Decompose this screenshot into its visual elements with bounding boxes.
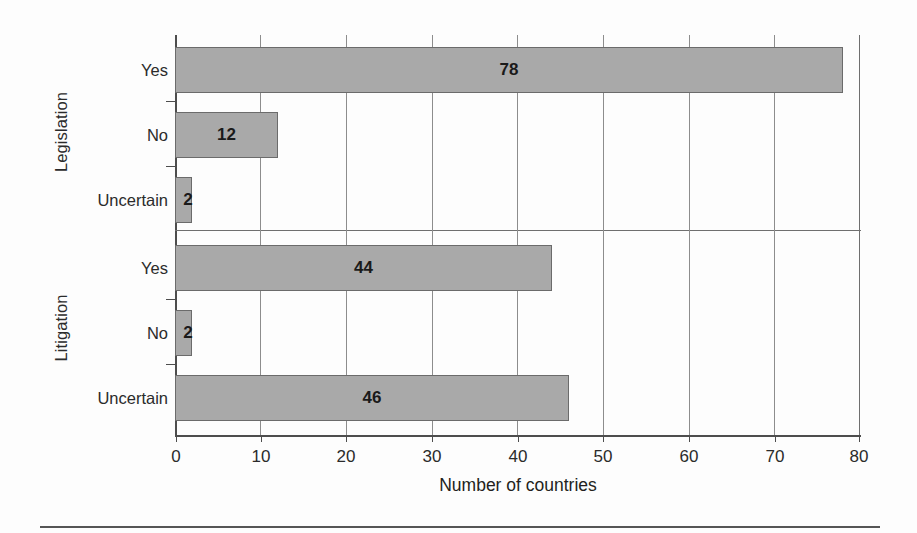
x-tick-label-50: 50 bbox=[573, 447, 633, 467]
bar-value-litigation-no: 2 bbox=[175, 323, 201, 343]
bar-litigation-no[interactable]: 2 bbox=[175, 310, 192, 356]
x-tick-mark-50 bbox=[603, 435, 604, 442]
x-tick-mark-60 bbox=[689, 435, 690, 442]
y-tick-mark bbox=[166, 299, 175, 300]
category-label-legislation-yes: Yes bbox=[48, 61, 168, 80]
bottom-rule bbox=[40, 526, 880, 528]
bar-value-legislation-no: 12 bbox=[176, 125, 277, 145]
x-tick-label-0: 0 bbox=[146, 447, 206, 467]
x-tick-mark-70 bbox=[775, 435, 776, 442]
gridline-60 bbox=[689, 35, 690, 435]
category-label-legislation-uncertain: Uncertain bbox=[48, 191, 168, 210]
x-tick-label-20: 20 bbox=[316, 447, 376, 467]
bar-litigation-yes[interactable]: 44 bbox=[175, 245, 552, 291]
figure-container: Legislation Litigation Yes No Uncertain … bbox=[0, 0, 917, 533]
x-tick-label-60: 60 bbox=[659, 447, 719, 467]
bar-value-litigation-yes: 44 bbox=[176, 258, 551, 278]
category-label-litigation-uncertain: Uncertain bbox=[48, 389, 168, 408]
x-tick-mark-10 bbox=[261, 435, 262, 442]
x-axis-title: Number of countries bbox=[175, 475, 861, 496]
x-tick-label-70: 70 bbox=[745, 447, 805, 467]
x-tick-mark-40 bbox=[518, 435, 519, 442]
bar-legislation-no[interactable]: 12 bbox=[175, 112, 278, 158]
y-tick-mark bbox=[166, 101, 175, 102]
bar-value-litigation-uncertain: 46 bbox=[176, 388, 568, 408]
category-label-litigation-no: No bbox=[48, 324, 168, 343]
x-tick-label-10: 10 bbox=[231, 447, 291, 467]
bar-legislation-yes[interactable]: 78 bbox=[175, 47, 843, 93]
x-tick-mark-30 bbox=[432, 435, 433, 442]
x-tick-label-80: 80 bbox=[829, 447, 889, 467]
gridline-70 bbox=[774, 35, 775, 435]
x-tick-mark-20 bbox=[346, 435, 347, 442]
y-tick-mark bbox=[166, 364, 175, 365]
category-label-legislation-no: No bbox=[48, 126, 168, 145]
bar-value-legislation-yes: 78 bbox=[176, 60, 842, 80]
x-tick-mark-0 bbox=[176, 435, 177, 442]
bar-value-legislation-uncertain: 2 bbox=[175, 190, 201, 210]
bar-legislation-uncertain[interactable]: 2 bbox=[175, 177, 192, 223]
x-tick-mark-80 bbox=[859, 435, 860, 442]
plot-area: 78 12 2 44 2 46 bbox=[175, 35, 860, 435]
category-label-litigation-yes: Yes bbox=[48, 259, 168, 278]
y-tick-mark bbox=[166, 166, 175, 167]
gridline-50 bbox=[603, 35, 604, 435]
x-tick-label-40: 40 bbox=[488, 447, 548, 467]
bar-litigation-uncertain[interactable]: 46 bbox=[175, 375, 569, 421]
x-tick-label-30: 30 bbox=[402, 447, 462, 467]
